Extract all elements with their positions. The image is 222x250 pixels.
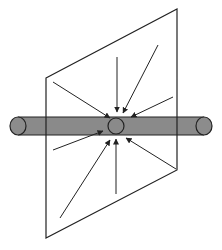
field-lines-diagram bbox=[0, 0, 222, 250]
arrow-icon bbox=[131, 97, 173, 117]
arrow-icon bbox=[53, 82, 110, 118]
cylinder-right-cap bbox=[196, 117, 212, 135]
arrow-icon bbox=[60, 140, 110, 218]
arrow-icon bbox=[123, 45, 158, 113]
arrow-icon bbox=[126, 138, 176, 169]
cylinder-left-cap bbox=[10, 117, 26, 135]
intersection-circle bbox=[108, 118, 124, 134]
